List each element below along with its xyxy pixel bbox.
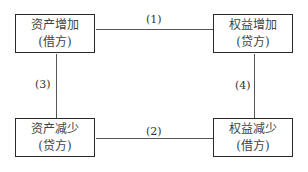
node-title: 资产增加 <box>31 17 79 34</box>
node-equity-decrease: 权益减少 (借方) <box>213 118 293 157</box>
node-asset-increase: 资产增加 (借方) <box>15 14 95 53</box>
node-side: (借方) <box>236 138 269 155</box>
edge-3-label: (3) <box>35 78 51 91</box>
edge-1-line <box>96 29 213 30</box>
node-side: (贷方) <box>236 34 269 51</box>
node-asset-decrease: 资产减少 (贷方) <box>15 118 95 157</box>
edge-2-label: (2) <box>146 125 162 138</box>
node-title: 资产减少 <box>31 121 79 138</box>
edge-3-line <box>56 54 57 118</box>
edge-4-line <box>254 54 255 118</box>
node-equity-increase: 权益增加 (贷方) <box>213 14 293 53</box>
node-title: 权益减少 <box>229 121 277 138</box>
node-side: (借方) <box>38 34 71 51</box>
node-side: (贷方) <box>38 138 71 155</box>
node-title: 权益增加 <box>229 17 277 34</box>
edge-4-label: (4) <box>235 79 251 92</box>
edge-1-label: (1) <box>146 13 162 26</box>
edge-2-line <box>96 138 213 139</box>
